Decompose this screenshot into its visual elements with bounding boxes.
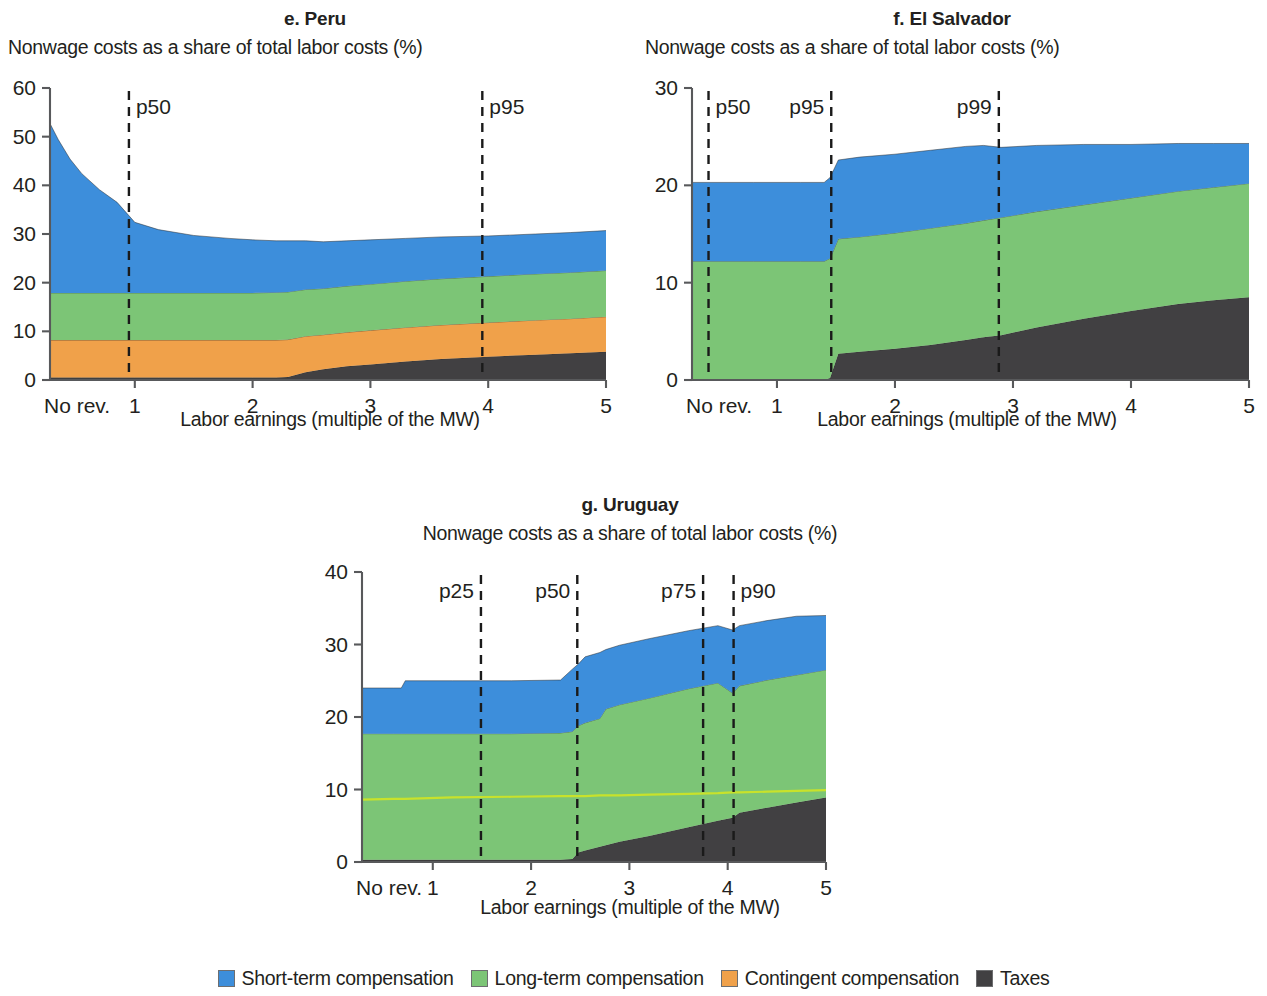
ytick-label: 30 bbox=[13, 222, 36, 245]
percentile-label-p25: p25 bbox=[439, 579, 474, 602]
percentile-label-p75: p75 bbox=[661, 579, 696, 602]
percentile-label-p99: p99 bbox=[957, 95, 992, 118]
ytick-label: 20 bbox=[325, 705, 348, 728]
percentile-label-p50: p50 bbox=[535, 579, 570, 602]
legend-swatch-taxes bbox=[976, 970, 993, 987]
percentile-label-p90: p90 bbox=[741, 579, 776, 602]
legend-item-taxes[interactable]: Taxes bbox=[976, 967, 1049, 990]
panel-peru-subtitle: Nonwage costs as a share of total labor … bbox=[8, 36, 630, 59]
ytick-label: 10 bbox=[13, 319, 36, 342]
percentile-label-p95: p95 bbox=[489, 95, 524, 118]
ytick-label: 0 bbox=[24, 368, 36, 391]
legend-item-short-term[interactable]: Short-term compensation bbox=[218, 967, 454, 990]
panel-uruguay: g. Uruguay Nonwage costs as a share of t… bbox=[310, 488, 950, 958]
ytick-label: 60 bbox=[13, 76, 36, 99]
legend-label: Contingent compensation bbox=[745, 967, 959, 990]
panel-uruguay-subtitle: Nonwage costs as a share of total labor … bbox=[310, 522, 950, 545]
chart-legend: Short-term compensationLong-term compens… bbox=[0, 967, 1267, 990]
panel-uruguay-xaxis-title: Labor earnings (multiple of the MW) bbox=[330, 896, 930, 919]
ytick-label: 20 bbox=[655, 173, 678, 196]
percentile-label-p50: p50 bbox=[136, 95, 171, 118]
legend-label: Taxes bbox=[1000, 967, 1049, 990]
panel-peru-plot: p50p95010203040506012345No rev. bbox=[0, 68, 630, 428]
ytick-label: 0 bbox=[666, 368, 678, 391]
ytick-label: 40 bbox=[325, 560, 348, 583]
percentile-label-p50: p50 bbox=[716, 95, 751, 118]
ytick-label: 50 bbox=[13, 125, 36, 148]
ytick-label: 10 bbox=[325, 778, 348, 801]
legend-item-long-term[interactable]: Long-term compensation bbox=[471, 967, 704, 990]
ytick-label: 40 bbox=[13, 173, 36, 196]
panel-el-salvador: f. El Salvador Nonwage costs as a share … bbox=[637, 0, 1267, 460]
panel-el-salvador-subtitle: Nonwage costs as a share of total labor … bbox=[645, 36, 1267, 59]
percentile-label-p95: p95 bbox=[789, 95, 824, 118]
legend-swatch-long-term bbox=[471, 970, 488, 987]
ytick-label: 0 bbox=[336, 850, 348, 873]
legend-swatch-short-term bbox=[218, 970, 235, 987]
ytick-label: 30 bbox=[655, 76, 678, 99]
panel-peru: e. Peru Nonwage costs as a share of tota… bbox=[0, 0, 630, 460]
panel-peru-xaxis-title: Labor earnings (multiple of the MW) bbox=[30, 408, 630, 431]
legend-item-contingent[interactable]: Contingent compensation bbox=[721, 967, 959, 990]
legend-swatch-contingent bbox=[721, 970, 738, 987]
ytick-label: 30 bbox=[325, 633, 348, 656]
panel-el-salvador-xaxis-title: Labor earnings (multiple of the MW) bbox=[667, 408, 1267, 431]
panel-el-salvador-title: f. El Salvador bbox=[637, 8, 1267, 30]
panel-el-salvador-plot: p50p95p99010203012345No rev. bbox=[637, 68, 1267, 428]
panel-uruguay-plot: p25p50p75p9001020304012345No rev. bbox=[310, 554, 950, 914]
panel-peru-title: e. Peru bbox=[0, 8, 630, 30]
area-short-term bbox=[50, 124, 606, 293]
panel-uruguay-title: g. Uruguay bbox=[310, 494, 950, 516]
ytick-label: 20 bbox=[13, 271, 36, 294]
legend-label: Short-term compensation bbox=[242, 967, 454, 990]
legend-label: Long-term compensation bbox=[495, 967, 704, 990]
ytick-label: 10 bbox=[655, 271, 678, 294]
